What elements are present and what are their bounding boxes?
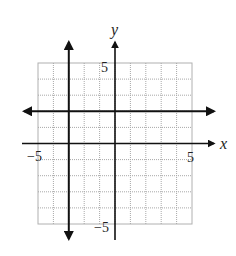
x-min-tick-label: −5 — [27, 149, 42, 164]
coordinate-plane: y x 5 −5 −5 5 — [0, 0, 236, 256]
y-max-tick-label: 5 — [101, 60, 108, 75]
y-axis-label: y — [109, 21, 119, 39]
x-axis-label: x — [219, 135, 227, 152]
y-min-tick-label: −5 — [94, 220, 109, 235]
x-max-tick-label: 5 — [187, 150, 194, 165]
